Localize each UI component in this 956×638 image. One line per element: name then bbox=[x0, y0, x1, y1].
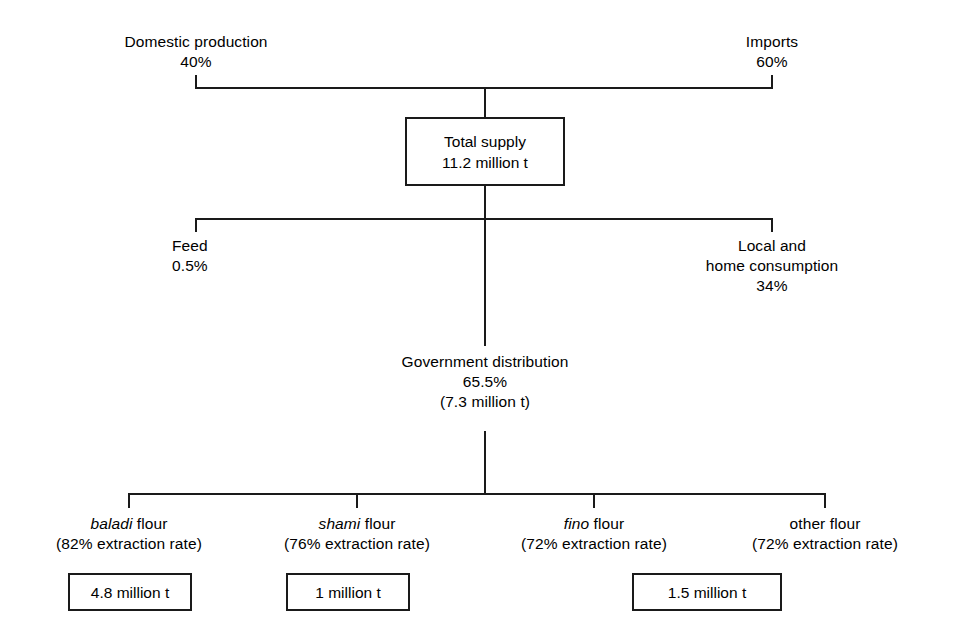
fino-rate: (72% extraction rate) bbox=[521, 534, 667, 554]
fino-italic: fino bbox=[564, 515, 589, 532]
connector-feed-stub bbox=[195, 218, 197, 232]
node-imports: Imports 60% bbox=[746, 32, 798, 72]
node-domestic-production: Domestic production 40% bbox=[124, 32, 267, 72]
other-name: other flour bbox=[752, 514, 898, 534]
shami-amount: 1 million t bbox=[315, 582, 380, 603]
amount-box-shami: 1 million t bbox=[286, 573, 410, 611]
node-government-distribution: Government distribution 65.5% (7.3 milli… bbox=[402, 352, 569, 412]
flour-label-shami: shami flour (76% extraction rate) bbox=[284, 514, 430, 554]
local-consumption-line2: home consumption bbox=[706, 256, 839, 276]
shami-italic: shami bbox=[319, 515, 361, 532]
amount-box-baladi: 4.8 million t bbox=[68, 573, 192, 611]
local-consumption-value: 34% bbox=[706, 276, 839, 296]
baladi-italic: baladi bbox=[90, 515, 132, 532]
government-distribution-value: 65.5% bbox=[402, 372, 569, 392]
shami-rate: (76% extraction rate) bbox=[284, 534, 430, 554]
baladi-rate: (82% extraction rate) bbox=[56, 534, 202, 554]
amount-box-fino: 1.5 million t bbox=[632, 573, 782, 611]
flow-diagram: Domestic production 40% Imports 60% Tota… bbox=[0, 0, 956, 638]
imports-name: Imports bbox=[746, 32, 798, 52]
government-distribution-name: Government distribution bbox=[402, 352, 569, 372]
domestic-production-name: Domestic production bbox=[124, 32, 267, 52]
feed-value: 0.5% bbox=[172, 256, 208, 276]
feed-name: Feed bbox=[172, 236, 208, 256]
connector-government-to-flours bbox=[484, 431, 486, 495]
total-supply-name: Total supply bbox=[444, 131, 526, 152]
connector-fino-stub bbox=[593, 493, 595, 508]
connector-to-total-supply bbox=[484, 87, 486, 118]
connector-local-stub bbox=[771, 218, 773, 232]
flour-label-baladi: baladi flour (82% extraction rate) bbox=[56, 514, 202, 554]
total-supply-box: Total supply 11.2 million t bbox=[405, 117, 565, 186]
other-suffix: other flour bbox=[790, 515, 861, 532]
baladi-amount: 4.8 million t bbox=[91, 582, 169, 603]
connector-to-government bbox=[484, 218, 486, 346]
fino-name: fino flour bbox=[521, 514, 667, 534]
fino-amount: 1.5 million t bbox=[668, 582, 746, 603]
connector-supply-to-bus bbox=[484, 186, 486, 220]
flour-label-fino: fino flour (72% extraction rate) bbox=[521, 514, 667, 554]
connector-baladi-stub bbox=[128, 493, 130, 508]
connector-shami-stub bbox=[356, 493, 358, 508]
imports-value: 60% bbox=[746, 52, 798, 72]
domestic-production-value: 40% bbox=[124, 52, 267, 72]
fino-suffix: flour bbox=[589, 515, 624, 532]
other-rate: (72% extraction rate) bbox=[752, 534, 898, 554]
connector-other-stub bbox=[824, 493, 826, 508]
node-feed: Feed 0.5% bbox=[172, 236, 208, 276]
baladi-name: baladi flour bbox=[56, 514, 202, 534]
baladi-suffix: flour bbox=[132, 515, 167, 532]
shami-suffix: flour bbox=[360, 515, 395, 532]
shami-name: shami flour bbox=[284, 514, 430, 534]
node-local-home-consumption: Local and home consumption 34% bbox=[706, 236, 839, 296]
total-supply-value: 11.2 million t bbox=[442, 152, 528, 173]
local-consumption-line1: Local and bbox=[706, 236, 839, 256]
government-distribution-amount: (7.3 million t) bbox=[402, 392, 569, 412]
flour-label-other: other flour (72% extraction rate) bbox=[752, 514, 898, 554]
connector-flours-bus bbox=[128, 493, 826, 495]
